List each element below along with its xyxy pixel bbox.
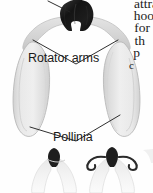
pollinarium-figure: Rotator arms Pollinia attra hoo for th p… <box>0 0 153 193</box>
anther-leader <box>48 1 70 12</box>
body-text-line-6: c <box>109 59 134 71</box>
body-text-line-5: p <box>109 47 140 59</box>
label-pollinia: Pollinia <box>53 130 93 144</box>
body-text-column: attra hoo for th p c <box>109 0 153 71</box>
label-rotator-arms: Rotator arms <box>28 51 99 65</box>
